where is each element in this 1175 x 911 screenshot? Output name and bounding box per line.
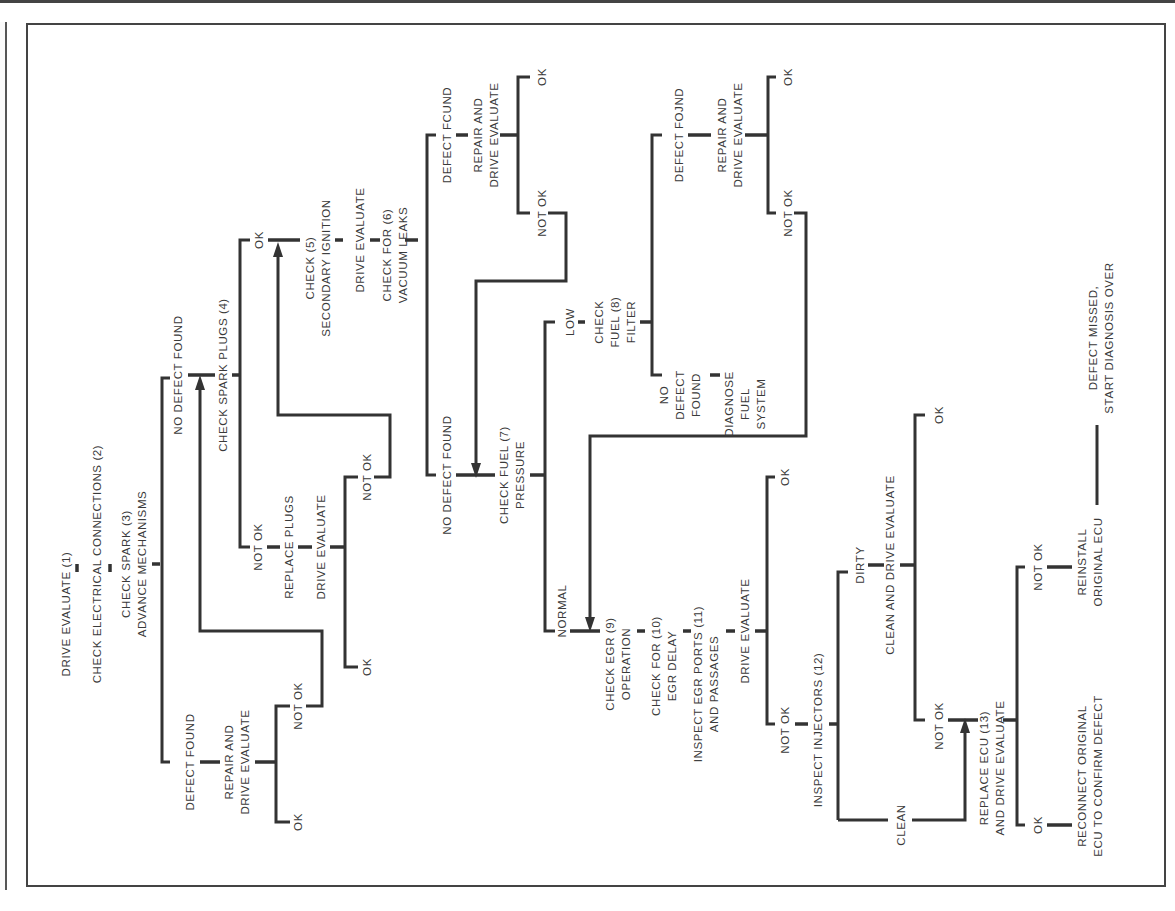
branch-not-ok-plugs-drive: NOT OK	[361, 453, 373, 500]
flowchart: DRIVE EVALUATE (1) CHECK ELECTRICAL CONN…	[0, 0, 1175, 911]
node-check-electrical-connections-2: CHECK ELECTRICAL CONNECTIONS (2)	[91, 445, 103, 684]
branch-not-ok-clean-drive: NOT OK	[933, 702, 945, 749]
branch-not-ok-ecu: NOT OK	[1032, 543, 1044, 590]
node-repair-and-drive-evaluate-3: REPAIR ANDDRIVE EVALUATE	[223, 709, 251, 814]
node-repair-and-drive-evaluate-6: REPAIR ANDDRIVE EVALUATE	[472, 82, 500, 187]
branch-ok-repair-3: OK	[292, 813, 304, 831]
branch-ok-clean-drive: OK	[933, 406, 945, 424]
branch-ok-repair-6: OK	[536, 68, 548, 86]
node-drive-evaluate-11: DRIVE EVALUATE	[739, 578, 751, 683]
node-reinstall-original-ecu: REINSTALLORIGINAL ECU	[1076, 517, 1104, 606]
node-drive-evaluate-1: DRIVE EVALUATE (1)	[60, 552, 72, 677]
branch-not-ok-plugs-4: NOT OK	[252, 523, 264, 570]
branch-ok-plugs-4: OK	[253, 231, 265, 249]
node-inspect-injectors-12: INSPECT INJECTORS (12)	[812, 653, 824, 808]
branch-no-defect-found-3: NO DEFECT FOUND	[172, 315, 184, 434]
branch-defect-found-8: DEFECT FOJND	[673, 88, 685, 183]
branch-not-ok-repair-3: NOT OK	[292, 682, 304, 729]
node-replace-ecu-13: REPLACE ECU (13)AND DRIVE EVALUATE	[978, 701, 1006, 836]
branch-ok-repair-8: OK	[782, 68, 794, 86]
branch-no-defect-found-6: NO DEFECT FOUND	[441, 415, 453, 534]
branch-dirty: DIRTY	[854, 546, 866, 583]
branch-normal: NORMAL	[556, 585, 568, 638]
node-reconnect-original-ecu: RECONNECT ORIGINALECU TO CONFIRM DEFECT	[1076, 695, 1104, 857]
node-check-spark-plugs-4: CHECK SPARK PLUGS (4)	[217, 298, 229, 452]
node-clean-and-drive-evaluate: CLEAN AND DRIVE EVALUATE	[884, 475, 896, 655]
node-check-vacuum-leaks-6: CHECK FOR (6)VACUUM LEAKS	[381, 207, 409, 303]
node-check-fuel-pressure-7: CHECK FUEL (7)PRESSURE	[498, 426, 526, 524]
node-check-spark-3: CHECK SPARK (3)ADVANCE MECHANISMS	[120, 491, 148, 638]
branch-low: LOW	[564, 308, 576, 336]
branch-ok-plugs-drive: OK	[361, 658, 373, 676]
branch-ok-egr-drive: OK	[779, 468, 791, 486]
node-diagnose-fuel-system: DIAGNOSEFUELSYSTEM	[723, 371, 767, 437]
branch-not-ok-egr-drive: NOT OK	[779, 706, 791, 753]
node-check-egr-operation-9: CHECK EGR (9)OPERATION	[604, 617, 632, 710]
node-replace-plugs: REPLACE PLUGS	[283, 495, 295, 599]
branch-ok-ecu: OK	[1032, 816, 1044, 834]
branch-clean: CLEAN	[895, 804, 907, 845]
node-drive-evaluate-5: DRIVE EVALUATE	[354, 187, 366, 292]
node-labels: DRIVE EVALUATE (1) CHECK ELECTRICAL CONN…	[60, 68, 1115, 857]
branch-defect-found-6: DEFECT FCUND	[441, 87, 453, 183]
node-check-egr-delay-10: CHECK FOR (10)EGR DELAY	[650, 616, 678, 716]
node-check-secondary-ignition-5: CHECK (5)SECONDARY IGNITION	[304, 199, 332, 337]
node-check-fuel-filter-8: CHECKFUEL (8)FILTER	[593, 296, 637, 347]
node-repair-and-drive-evaluate-8: REPAIR ANDDRIVE EVALUATE	[716, 82, 744, 187]
node-drive-evaluate-plugs: DRIVE EVALUATE	[315, 494, 327, 599]
branch-defect-found-3: DEFECT FOUND	[184, 713, 196, 810]
node-inspect-egr-ports-11: INSPECT EGR PORTS (11)AND PASSAGES	[692, 606, 720, 762]
branch-not-ok-repair-8: NOT OK	[782, 189, 794, 236]
branch-no-defect-found-8: NODEFECTFOUND	[658, 370, 702, 420]
node-defect-missed-start-over: DEFECT MISSED,START DIAGNOSIS OVER	[1087, 262, 1115, 413]
branch-not-ok-repair-6: NOT OK	[536, 189, 548, 236]
